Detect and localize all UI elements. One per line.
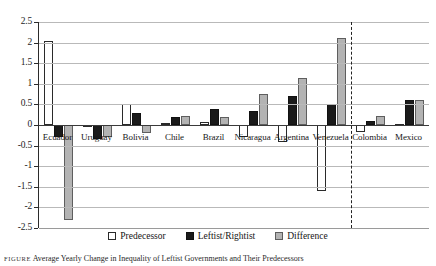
bar-difference	[337, 38, 347, 125]
bar-leftist	[249, 111, 259, 125]
bar-leftist	[288, 96, 298, 125]
y-axis-tick-mark	[34, 146, 38, 147]
figure-caption: FIGURE Average Yearly Change in Inequali…	[4, 254, 432, 264]
bar-predecessor	[356, 125, 366, 132]
legend-item: Predecessor	[108, 231, 165, 241]
difference-swatch	[275, 232, 283, 240]
y-axis-tick-label: 0.5	[0, 99, 32, 109]
legend-label: Difference	[287, 231, 327, 241]
gridline	[39, 22, 429, 23]
figure-caption-text: Average Yearly Change in Inequality of L…	[33, 254, 304, 263]
x-axis-label-bolivia: Bolivia	[116, 132, 155, 142]
y-axis-tick-mark	[34, 228, 38, 229]
figure-root: 2.521.510.50-0.5-1-1.5-2-2.5 EcuadorUrug…	[0, 0, 436, 266]
y-axis-tick-label: -1	[0, 161, 32, 171]
y-axis-tick-mark	[34, 84, 38, 85]
y-axis-tick-label: 1.5	[0, 58, 32, 68]
gridline	[39, 187, 429, 188]
y-axis-tick-mark	[34, 207, 38, 208]
y-axis-tick-mark	[34, 104, 38, 105]
bar-difference	[181, 116, 191, 125]
x-axis-label-argentina: Argentina	[272, 132, 311, 142]
bar-predecessor	[44, 41, 54, 125]
x-axis-label-venezuela: Venezuela	[311, 132, 350, 142]
y-axis-tick-label: -1.5	[0, 182, 32, 192]
y-axis-tick-label: 0	[0, 120, 32, 130]
y-axis-tick-label: -0.5	[0, 141, 32, 151]
y-axis-tick-mark	[34, 22, 38, 23]
y-axis-tick-label: 1	[0, 79, 32, 89]
bar-difference	[220, 117, 230, 125]
bar-leftist	[210, 109, 220, 125]
bar-difference	[259, 94, 269, 125]
y-axis-tick-label: 2	[0, 38, 32, 48]
bar-leftist	[132, 113, 142, 125]
gridline	[39, 166, 429, 167]
predecessor-swatch	[108, 232, 116, 240]
y-axis-tick-mark	[34, 125, 38, 126]
x-axis-label-uruguay: Uruguay	[77, 132, 116, 142]
gridline	[39, 228, 429, 229]
y-axis-tick-label: 2.5	[0, 17, 32, 27]
x-axis-label-ecuador: Ecuador	[38, 132, 77, 142]
gridline	[39, 125, 429, 126]
x-axis-label-colombia: Colombia	[350, 132, 389, 142]
x-axis-label-chile: Chile	[155, 132, 194, 142]
gridline	[39, 84, 429, 85]
bar-leftist	[327, 104, 337, 125]
gridline	[39, 43, 429, 44]
y-axis-tick-mark	[34, 187, 38, 188]
gridline	[39, 207, 429, 208]
legend-label: Predecessor	[120, 231, 165, 241]
chart-plot-area	[38, 22, 428, 228]
bar-difference	[376, 116, 386, 125]
figure-caption-tag: FIGURE	[4, 255, 31, 262]
bar-predecessor	[122, 104, 132, 125]
y-axis-tick-mark	[34, 166, 38, 167]
gridline	[39, 63, 429, 64]
chart-legend: PredecessorLeftist/RightistDifference	[0, 231, 436, 241]
gridline	[39, 104, 429, 105]
legend-label: Leftist/Rightist	[198, 231, 256, 241]
bar-leftist	[171, 117, 181, 125]
leftist-rightist-swatch	[186, 232, 194, 240]
x-axis-label-mexico: Mexico	[389, 132, 428, 142]
ideology-divider-line	[351, 22, 352, 228]
y-axis-tick-mark	[34, 43, 38, 44]
y-axis-tick-mark	[34, 63, 38, 64]
legend-item: Leftist/Rightist	[186, 231, 256, 241]
y-axis-tick-label: -2	[0, 202, 32, 212]
x-axis-label-brazil: Brazil	[194, 132, 233, 142]
gridline	[39, 146, 429, 147]
legend-item: Difference	[275, 231, 327, 241]
x-axis-label-nicaragua: Nicaragua	[233, 132, 272, 142]
